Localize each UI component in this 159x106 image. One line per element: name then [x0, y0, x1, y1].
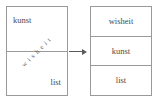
left-box-label-kunst: kunst	[13, 16, 31, 25]
sorted-row-wisheit: wisheit	[91, 7, 151, 37]
sorted-row-list: list	[91, 66, 151, 95]
transformation-diagram: kunst list wisheit wisheit kunst list	[0, 0, 159, 106]
sorted-row-kunst: kunst	[91, 37, 151, 67]
arrow-head-icon	[82, 49, 87, 55]
left-box-label-list: list	[51, 78, 61, 87]
unsorted-box: kunst list wisheit	[6, 6, 68, 96]
sorted-row-label: kunst	[112, 47, 130, 56]
sorted-row-label: list	[116, 76, 126, 85]
sorted-box: wisheit kunst list	[90, 6, 152, 96]
sorted-row-label: wisheit	[109, 17, 134, 26]
transform-arrow	[69, 50, 89, 53]
